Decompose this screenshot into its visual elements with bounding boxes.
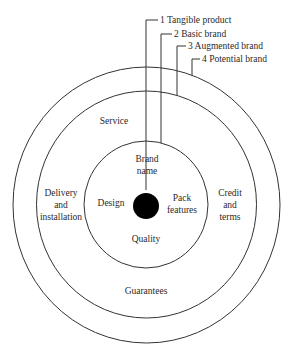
- label-quality: Quality: [132, 234, 161, 244]
- label-delivery-line3: installation: [40, 212, 82, 222]
- core-dot: [133, 193, 159, 219]
- label-brand-name-line2: name: [137, 166, 158, 176]
- label-brand-name-line1: Brand: [135, 154, 158, 164]
- label-credit-line2: and: [223, 200, 237, 210]
- label-pack-line2: features: [167, 205, 197, 215]
- label-pack-line1: Pack: [173, 193, 192, 203]
- leader-line-2: [161, 34, 172, 143]
- label-service: Service: [100, 116, 129, 126]
- label-credit-line3: terms: [219, 212, 240, 222]
- leader-line-4: [192, 59, 200, 75]
- label-potential-brand: 4 Potential brand: [202, 54, 267, 64]
- leader-line-1: [146, 20, 158, 190]
- label-design: Design: [98, 198, 125, 208]
- label-delivery-line1: Delivery: [44, 188, 77, 198]
- brand-levels-diagram: 1 Tangible product 2 Basic brand 3 Augme…: [0, 0, 294, 359]
- label-credit-line1: Credit: [218, 188, 242, 198]
- label-guarantees: Guarantees: [125, 286, 168, 296]
- label-augmented-brand: 3 Augmented brand: [188, 41, 263, 51]
- label-delivery-line2: and: [54, 200, 68, 210]
- label-tangible-product: 1 Tangible product: [160, 15, 232, 25]
- label-basic-brand: 2 Basic brand: [174, 29, 226, 39]
